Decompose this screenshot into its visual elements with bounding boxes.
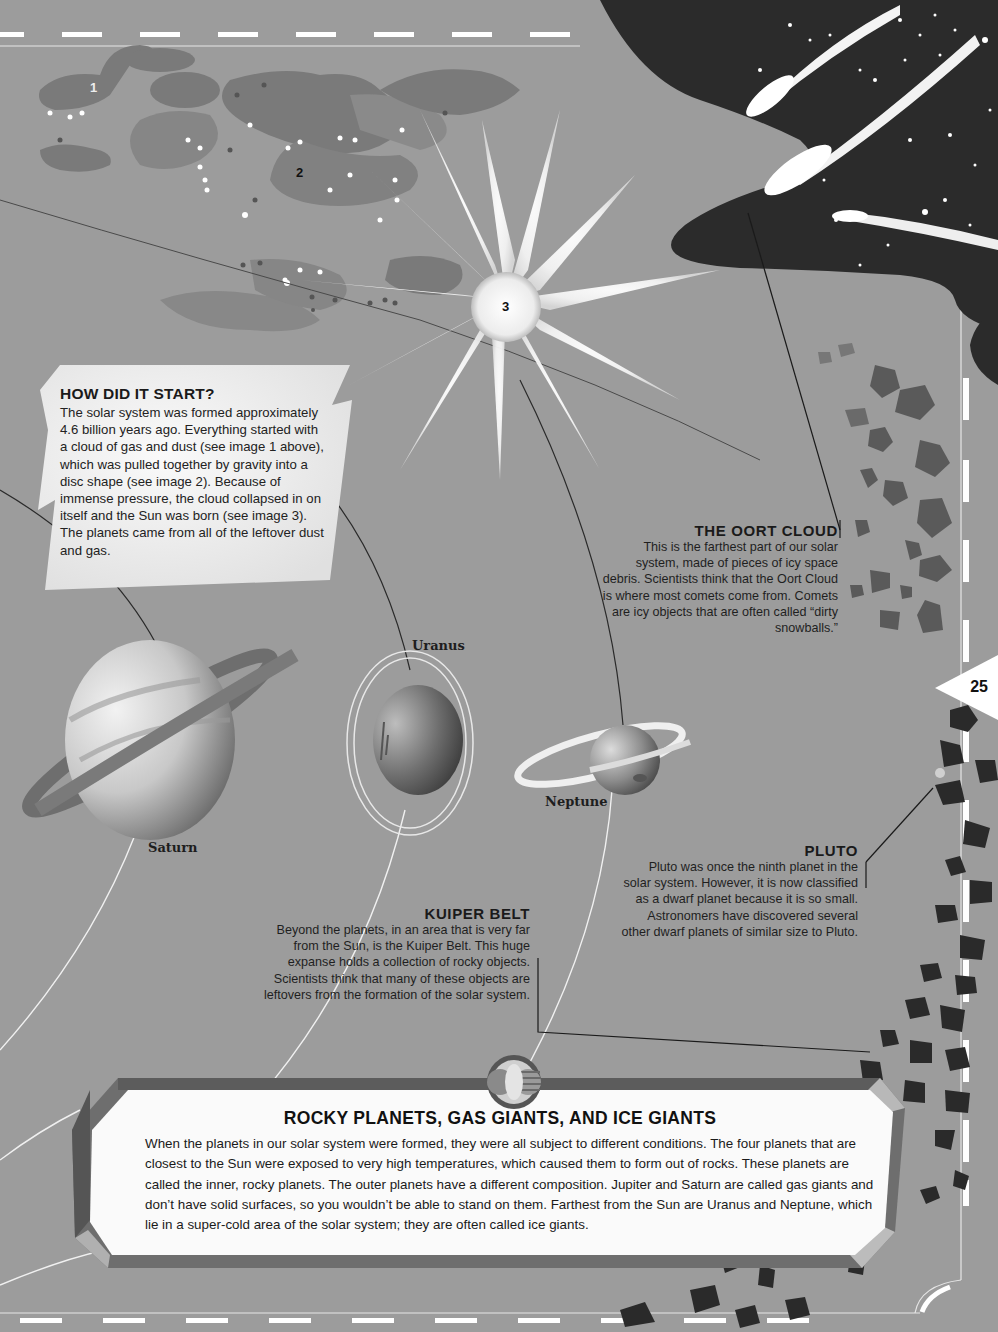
neptune-label: Neptune — [545, 794, 607, 809]
how-did-it-start-box: HOW DID IT START? The solar system was f… — [60, 385, 325, 559]
uranus-label: Uranus — [412, 638, 465, 653]
pluto-title: PLUTO — [620, 842, 858, 859]
page-number: 25 — [970, 678, 988, 696]
panel-body: When the planets in our solar system wer… — [145, 1134, 875, 1235]
kuiper-belt-body: Beyond the planets, in an area that is v… — [262, 922, 530, 1003]
stage-1-label: 1 — [90, 80, 97, 95]
stage-3-label: 3 — [502, 299, 509, 314]
stage-2-label: 2 — [296, 165, 303, 180]
panel-title: ROCKY PLANETS, GAS GIANTS, AND ICE GIANT… — [140, 1108, 860, 1129]
pluto-body: Pluto was once the ninth planet in the s… — [620, 859, 858, 940]
page-number-tab: 25 — [934, 660, 998, 716]
kuiper-belt-callout: KUIPER BELT Beyond the planets, in an ar… — [262, 905, 530, 1003]
oort-cloud-title: THE OORT CLOUD — [600, 522, 838, 539]
background-illustration — [0, 0, 998, 1332]
pluto-callout: PLUTO Pluto was once the ninth planet in… — [620, 842, 858, 940]
book-page: 1 2 3 HOW DID IT START? The solar system… — [0, 0, 998, 1332]
oort-cloud-body: This is the farthest part of our solar s… — [600, 539, 838, 636]
kuiper-belt-title: KUIPER BELT — [262, 905, 530, 922]
how-did-it-start-body: The solar system was formed approximatel… — [60, 404, 325, 559]
how-did-it-start-title: HOW DID IT START? — [60, 385, 325, 403]
oort-cloud-callout: THE OORT CLOUD This is the farthest part… — [600, 522, 838, 636]
saturn-label: Saturn — [148, 840, 198, 855]
